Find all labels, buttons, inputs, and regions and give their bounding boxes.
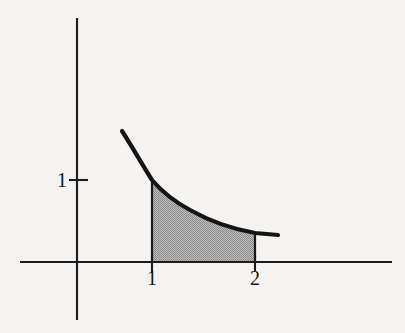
- shaded-area-under-curve: [152, 180, 255, 261]
- figure-canvas: 1 2 1: [0, 0, 405, 333]
- x-tick-label-2: 2: [250, 267, 260, 289]
- y-tick-label-1: 1: [57, 169, 67, 191]
- plot-svg: 1 2 1: [0, 0, 405, 333]
- x-tick-label-1: 1: [147, 267, 157, 289]
